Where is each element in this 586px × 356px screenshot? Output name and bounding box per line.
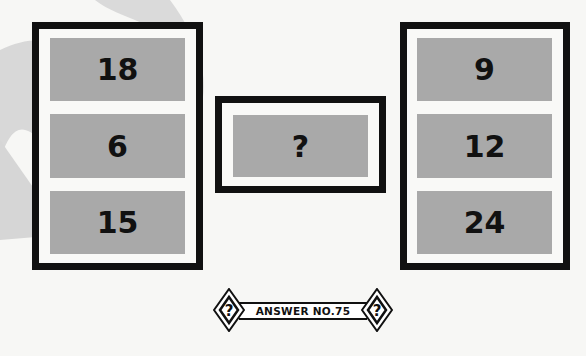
answer-label: ANSWER NO.75 xyxy=(239,302,367,320)
right-cell-3: 24 xyxy=(417,191,552,254)
left-cell-1: 18 xyxy=(50,38,185,101)
right-cell-2: 12 xyxy=(417,114,552,178)
answer-badge: ANSWER NO.75 ? ? xyxy=(213,288,393,332)
svg-text:?: ? xyxy=(225,302,234,320)
question-diamond-icon: ? xyxy=(361,288,393,332)
missing-number-box: ? xyxy=(215,96,386,193)
svg-text:?: ? xyxy=(373,302,382,320)
left-number-column: 18 6 15 xyxy=(32,22,203,270)
question-diamond-icon: ? xyxy=(213,288,245,332)
right-number-column: 9 12 24 xyxy=(400,22,570,270)
question-cell: ? xyxy=(233,115,368,177)
left-cell-3: 15 xyxy=(50,191,185,254)
left-cell-2: 6 xyxy=(50,114,185,178)
right-cell-1: 9 xyxy=(417,38,552,101)
